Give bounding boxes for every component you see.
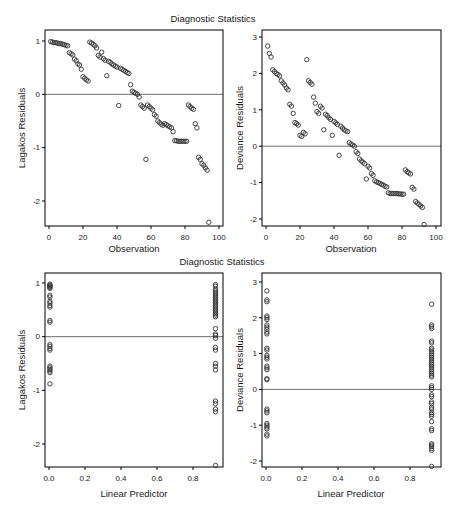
diagnostic-statistics-figure: Diagnostic Statistics Diagnostic Statist… [0, 0, 456, 519]
data-point [117, 103, 121, 107]
data-point [195, 126, 199, 130]
data-point [128, 83, 132, 87]
data-point [305, 57, 309, 61]
y-tick-label: 1 [36, 279, 41, 288]
data-point [213, 410, 217, 414]
y-tick-label: 2 [253, 314, 258, 323]
y-axis-label: Lagakos Residuals [16, 88, 27, 169]
y-tick-label: 0 [253, 385, 258, 394]
x-axis-label: Observation [325, 243, 376, 254]
x-tick-label: 0.0 [260, 474, 272, 483]
x-axis-label: Linear Predictor [317, 488, 384, 499]
plot-frame [45, 273, 223, 467]
y-tick-label: 0 [36, 90, 41, 99]
data-point [144, 157, 148, 161]
data-point [364, 177, 368, 181]
y-tick-label: -1 [33, 386, 41, 395]
x-tick-label: 0.6 [151, 474, 163, 483]
data-point [100, 50, 104, 54]
y-tick-label: -1 [250, 178, 258, 187]
x-tick-label: 60 [364, 233, 373, 242]
y-tick-label: 2 [253, 69, 258, 78]
data-point [330, 133, 334, 137]
x-tick-label: 100 [429, 233, 443, 242]
y-tick-label: -2 [250, 215, 258, 224]
y-tick-label: -2 [33, 440, 41, 449]
data-point [313, 101, 317, 105]
y-axis-label: Deviance Residuals [234, 328, 245, 412]
data-point [429, 419, 433, 423]
data-point [79, 67, 83, 71]
data-point [207, 220, 211, 224]
panel-deviance-vs-observation: 0204060801003210-1-2ObservationDeviance … [234, 30, 443, 254]
x-tick-label: 0.6 [368, 474, 380, 483]
x-tick-label: 20 [79, 233, 88, 242]
y-tick-label: 0 [36, 332, 41, 341]
data-point [213, 326, 217, 330]
x-tick-label: 0.8 [404, 474, 416, 483]
y-tick-label: -1 [250, 421, 258, 430]
y-axis-label: Deviance Residuals [234, 86, 245, 170]
x-tick-label: 80 [181, 233, 190, 242]
data-point [213, 348, 217, 352]
data-point [48, 382, 52, 386]
panel-deviance-vs-linear-predictor: 0.00.20.40.60.83210-1-2Linear PredictorD… [234, 273, 441, 499]
data-point [266, 44, 270, 48]
y-tick-label: 0 [253, 142, 258, 151]
data-point [311, 95, 315, 99]
x-tick-label: 0 [264, 233, 269, 242]
plot-frame [262, 273, 441, 467]
x-tick-label: 60 [147, 233, 156, 242]
data-point [322, 128, 326, 132]
data-point [193, 122, 197, 126]
y-tick-label: 3 [253, 278, 258, 287]
x-tick-label: 0.0 [43, 474, 55, 483]
y-tick-label: 1 [253, 106, 258, 115]
x-tick-label: 0.4 [115, 474, 127, 483]
plot-frame [45, 30, 223, 226]
x-tick-label: 0.4 [332, 474, 344, 483]
x-tick-label: 40 [330, 233, 339, 242]
data-point [213, 402, 217, 406]
x-tick-label: 0.2 [296, 474, 308, 483]
plot-frame [262, 30, 441, 226]
data-point [291, 111, 295, 115]
data-point [269, 55, 273, 59]
x-axis-label: Observation [108, 243, 159, 254]
x-tick-label: 0.8 [187, 474, 199, 483]
x-tick-label: 80 [398, 233, 407, 242]
y-tick-label: 3 [253, 33, 258, 42]
y-tick-label: -1 [33, 143, 41, 152]
panel-lagakos-vs-observation: 02040608010010-1-2ObservationLagakos Res… [16, 30, 226, 254]
y-tick-label: 1 [36, 37, 41, 46]
data-point [171, 130, 175, 134]
data-point [105, 74, 109, 78]
y-tick-label: -2 [33, 197, 41, 206]
x-axis-label: Linear Predictor [100, 488, 167, 499]
data-point [429, 302, 433, 306]
plots-svg: 02040608010010-1-2ObservationLagakos Res… [0, 0, 456, 519]
data-point [265, 289, 269, 293]
y-tick-label: -2 [250, 457, 258, 466]
panel-lagakos-vs-linear-predictor: 0.00.20.40.60.810-1-2Linear PredictorLag… [16, 273, 223, 499]
x-tick-label: 20 [296, 233, 305, 242]
data-point [429, 464, 433, 468]
data-point [337, 153, 341, 157]
x-tick-label: 0.2 [79, 474, 91, 483]
y-tick-label: 1 [253, 349, 258, 358]
y-axis-label: Lagakos Residuals [16, 330, 27, 411]
x-tick-label: 100 [212, 233, 226, 242]
x-tick-label: 40 [113, 233, 122, 242]
x-tick-label: 0 [47, 233, 52, 242]
